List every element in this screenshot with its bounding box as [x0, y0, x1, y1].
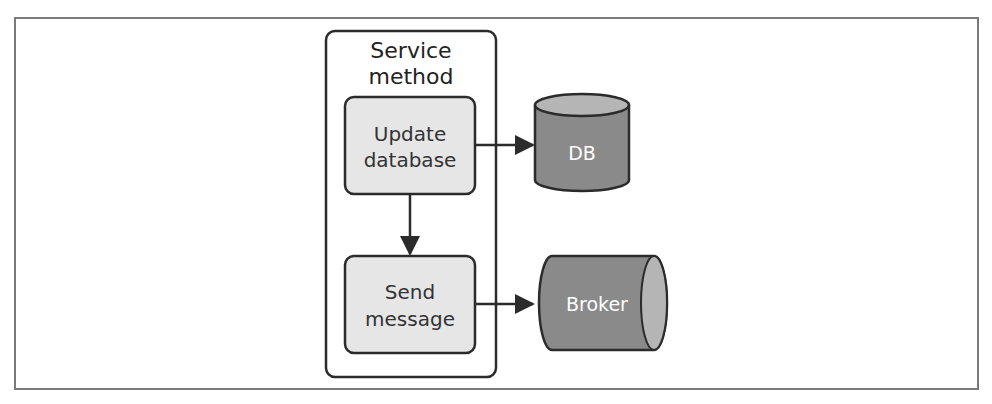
container-title-line2: method	[369, 64, 454, 89]
architecture-diagram: Service method Update database Send mess…	[0, 0, 992, 404]
step-update-database-line1: Update	[374, 122, 446, 146]
db-cylinder: DB	[535, 94, 629, 191]
step-send-message-line1: Send	[385, 280, 435, 304]
container-title-line1: Service	[370, 38, 451, 63]
step-update-database-line2: database	[364, 148, 457, 172]
step-update-database: Update database	[345, 97, 475, 194]
step-send-message-line2: message	[365, 307, 455, 331]
step-send-message: Send message	[345, 256, 475, 353]
broker-label: Broker	[566, 293, 628, 315]
db-label: DB	[568, 142, 596, 164]
broker-cylinder: Broker	[539, 256, 667, 350]
